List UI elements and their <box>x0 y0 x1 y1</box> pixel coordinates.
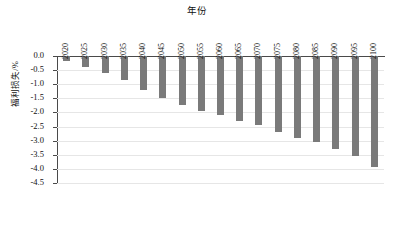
grid-line <box>57 155 384 156</box>
chart-title: 年份 <box>0 3 394 17</box>
y-axis-tick-label: -3.5 <box>0 149 44 159</box>
x-axis-tick-label: 2020 <box>61 43 70 59</box>
y-axis-tick-label: -0.5 <box>0 64 44 74</box>
y-axis-tick <box>53 169 57 170</box>
y-axis-tick <box>53 112 57 113</box>
x-axis-tick-label: 2065 <box>234 43 243 59</box>
x-axis-tick-label: 2070 <box>253 43 262 59</box>
bar <box>255 56 262 125</box>
bar <box>198 56 205 111</box>
x-axis-tick-label: 2095 <box>350 43 359 59</box>
x-axis-tick-label: 2025 <box>80 43 89 59</box>
y-axis-tick-label: -3.0 <box>0 135 44 145</box>
x-axis-tick-label: 2060 <box>215 43 224 59</box>
y-axis-tick <box>53 84 57 85</box>
y-axis-tick <box>53 98 57 99</box>
y-axis-tick-label: -4.0 <box>0 163 44 173</box>
grid-line <box>57 169 384 170</box>
y-axis-tick-label: -4.5 <box>0 177 44 187</box>
y-axis-tick-label: -2.0 <box>0 106 44 116</box>
bar <box>159 56 166 98</box>
bar <box>121 56 128 80</box>
welfare-loss-bar-chart: 年份 福利损失/% 0.0-0.5-1.0-1.5-2.0-2.5-3.0-3.… <box>0 0 394 228</box>
x-axis-tick-label: 2035 <box>119 43 128 59</box>
x-axis-tick-label: 2050 <box>177 43 186 59</box>
y-axis-tick-label: -1.5 <box>0 92 44 102</box>
bar <box>332 56 339 149</box>
y-axis-tick <box>53 70 57 71</box>
y-axis-tick <box>53 127 57 128</box>
x-axis-tick-label: 2040 <box>138 43 147 59</box>
bar <box>140 56 147 90</box>
bar <box>352 56 359 156</box>
x-axis-tick-label: 2075 <box>273 43 282 59</box>
x-axis-tick-label: 2090 <box>330 43 339 59</box>
bar <box>179 56 186 105</box>
y-axis-tick-label: 0.0 <box>0 50 44 60</box>
y-axis-tick <box>53 183 57 184</box>
bar <box>313 56 320 142</box>
y-axis-tick-label: -2.5 <box>0 121 44 131</box>
bar <box>217 56 224 115</box>
bar <box>275 56 282 132</box>
x-axis-tick-label: 2085 <box>311 43 320 59</box>
x-axis-tick-label: 2080 <box>292 43 301 59</box>
y-axis-tick <box>53 155 57 156</box>
bar <box>371 56 378 167</box>
x-axis-tick-label: 2030 <box>100 43 109 59</box>
x-axis-tick-label: 2100 <box>369 43 378 59</box>
bar <box>294 56 301 138</box>
x-axis-tick-label: 2045 <box>157 43 166 59</box>
plot-area: 0.0-0.5-1.0-1.5-2.0-2.5-3.0-3.5-4.0-4.52… <box>57 56 384 183</box>
grid-line <box>57 183 384 184</box>
x-axis-tick-label: 2055 <box>196 43 205 59</box>
y-axis-tick <box>53 56 57 57</box>
y-axis-tick <box>53 141 57 142</box>
y-axis-tick-label: -1.0 <box>0 78 44 88</box>
bar <box>236 56 243 121</box>
